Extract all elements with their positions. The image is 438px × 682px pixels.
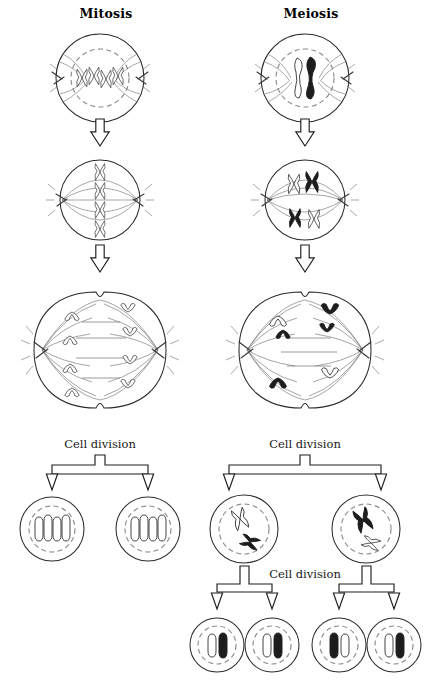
label-cell-division-meiosis-two: Cell division: [269, 567, 341, 581]
label-cell-division-meiosis-one: Cell division: [269, 437, 341, 451]
column-title-mitosis: Mitosis: [80, 6, 133, 21]
meiosis-stage-3-anaphase-i: [226, 292, 384, 408]
mitosis-daughter-cell-1: [20, 497, 84, 561]
mitosis-meiosis-diagram: Mitosis Meiosis: [0, 0, 438, 682]
mitosis-stage-3-anaphase: [21, 292, 179, 408]
split-arrow-mitosis: [46, 455, 153, 490]
meiosis-daughter-cell-2: [332, 495, 400, 563]
split-arrow-meiosis-two-left: [211, 566, 277, 609]
column-title-meiosis: Meiosis: [283, 6, 338, 21]
arrow-meiosis-2-to-3: [296, 245, 314, 272]
meiosis-stage-1-prophase-i: [255, 34, 355, 122]
label-cell-division-mitosis: Cell division: [64, 437, 136, 451]
meiosis-gamete-4: [367, 618, 421, 672]
meiosis-gamete-1: [190, 618, 244, 672]
meiosis-gamete-3: [312, 618, 366, 672]
mitosis-stage-1-prophase: [50, 34, 150, 122]
split-arrow-meiosis-one: [223, 455, 386, 490]
split-arrow-meiosis-two-right: [333, 566, 399, 609]
arrow-meiosis-1-to-2: [296, 119, 314, 146]
meiosis-gamete-2: [245, 618, 299, 672]
meiosis-daughter-cell-1: [210, 495, 278, 563]
mitosis-stage-2-metaphase: [46, 160, 154, 240]
meiosis-stage-2-metaphase-i: [251, 160, 359, 240]
arrow-mitosis-1-to-2: [91, 119, 109, 146]
mitosis-daughter-cell-2: [116, 497, 180, 561]
arrow-mitosis-2-to-3: [91, 245, 109, 272]
